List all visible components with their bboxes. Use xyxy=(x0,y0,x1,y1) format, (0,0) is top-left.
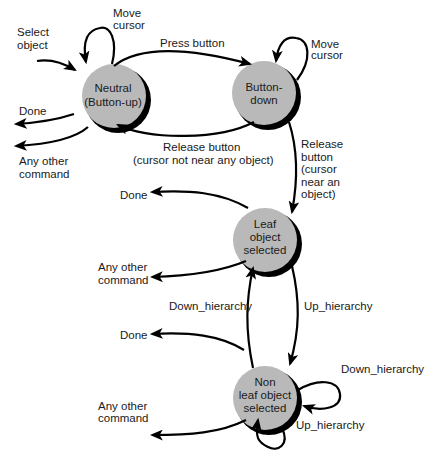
edge-release-near xyxy=(289,122,296,212)
label-move-cursor-neutral-2: cursor xyxy=(113,19,145,31)
label-select-object-2: object xyxy=(17,39,48,51)
label-any-other-nonleaf-1: Any other xyxy=(98,400,147,412)
label-release-near-1: Release xyxy=(301,138,343,150)
edge-any-other-neutral xyxy=(16,127,88,146)
node-leaf-line2: object xyxy=(250,231,281,243)
label-down-hierarchy: Down_hierarchy xyxy=(169,300,252,312)
label-press-button: Press button xyxy=(160,37,225,49)
label-any-other-neutral-1: Any other xyxy=(19,155,68,167)
state-diagram: Neutral (Button-up) Button- down Leaf ob… xyxy=(0,0,429,450)
label-move-cursor-neutral-1: Move xyxy=(113,7,141,19)
label-release-near-2: button xyxy=(301,151,333,163)
edge-done-leaf xyxy=(152,191,248,208)
edge-down-hierarchy-self xyxy=(298,382,340,409)
edge-down-hierarchy xyxy=(247,268,253,368)
node-leaf-line3: selected xyxy=(244,244,287,256)
node-button-down: Button- down xyxy=(232,61,301,130)
edge-press-button xyxy=(114,51,250,66)
node-neutral-line2: (Button-up) xyxy=(84,96,142,108)
label-release-near-3: (cursor xyxy=(301,163,337,175)
node-button-down-line1: Button- xyxy=(245,81,282,93)
edge-any-other-nonleaf xyxy=(152,420,246,435)
label-release-not-near-1: Release button xyxy=(163,141,240,153)
label-move-cursor-bd-2: cursor xyxy=(311,49,343,61)
label-done-neutral: Done xyxy=(19,105,47,117)
node-neutral: Neutral (Button-up) xyxy=(82,64,151,133)
label-done-leaf: Done xyxy=(120,189,148,201)
edge-up-hierarchy xyxy=(290,266,298,364)
edge-done-nonleaf xyxy=(152,333,244,350)
label-up-hierarchy-self: Up_hierarchy xyxy=(296,419,365,431)
label-select-object-1: Select xyxy=(17,26,50,38)
label-any-other-nonleaf-2: command xyxy=(98,412,149,424)
edge-any-other-leaf xyxy=(152,261,246,277)
label-release-near-4: near an xyxy=(301,176,340,188)
label-done-nonleaf: Done xyxy=(120,329,148,341)
node-neutral-line1: Neutral xyxy=(94,82,131,94)
label-down-hierarchy-self: Down_hierarchy xyxy=(341,363,424,375)
label-up-hierarchy: Up_hierarchy xyxy=(304,300,373,312)
label-release-not-near-2: (cursor not near any object) xyxy=(133,154,274,166)
edge-move-cursor-neutral xyxy=(85,28,114,64)
node-button-down-line2: down xyxy=(250,94,278,106)
node-nonleaf-line1: Non xyxy=(254,376,275,388)
edge-select-object xyxy=(37,60,75,70)
node-leaf-line1: Leaf xyxy=(254,218,277,230)
node-nonleaf: Non leaf object selected xyxy=(233,366,302,435)
label-release-near-5: object) xyxy=(301,188,336,200)
label-any-other-neutral-2: command xyxy=(19,168,70,180)
label-any-other-leaf-1: Any other xyxy=(98,261,147,273)
label-any-other-leaf-2: command xyxy=(98,274,149,286)
node-nonleaf-line2: leaf object xyxy=(239,389,292,401)
node-nonleaf-line3: selected xyxy=(244,402,287,414)
